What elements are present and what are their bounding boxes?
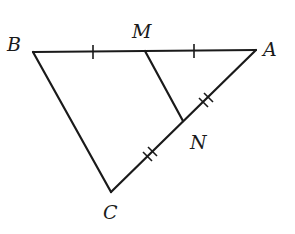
label-b: B	[6, 33, 21, 55]
label-c: C	[103, 201, 118, 223]
segment-bc	[33, 52, 111, 192]
label-a: A	[261, 38, 277, 60]
label-m: M	[131, 20, 152, 42]
label-n: N	[189, 131, 208, 153]
triangle-diagram: B M A N C	[0, 0, 295, 234]
segment-mn	[145, 51, 183, 121]
